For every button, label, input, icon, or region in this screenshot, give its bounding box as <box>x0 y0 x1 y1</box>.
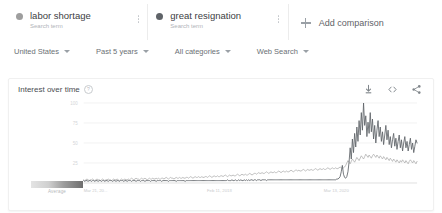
chevron-down-icon <box>303 50 309 53</box>
chevron-down-icon <box>64 50 70 53</box>
svg-text:50: 50 <box>73 141 78 146</box>
svg-text:Mar 13, 2020: Mar 13, 2020 <box>324 188 350 193</box>
svg-text:100: 100 <box>70 101 78 106</box>
add-comparison-button[interactable]: Add comparison <box>289 4 434 40</box>
panel-header: Interest over time ? <box>9 79 433 95</box>
search-term-sublabel-2: Search term <box>170 22 273 30</box>
filter-location[interactable]: United States <box>14 47 70 56</box>
search-term-sublabel-1: Search term <box>30 22 133 30</box>
svg-text:Mar 21, 20...: Mar 21, 20... <box>84 188 108 193</box>
svg-text:Feb 11, 2018: Feb 11, 2018 <box>207 188 232 193</box>
average-legend-label: Average <box>31 189 83 194</box>
search-term-label-2: great resignation <box>170 10 273 21</box>
download-icon[interactable] <box>363 84 374 95</box>
series-color-dot-2 <box>156 13 163 20</box>
filter-category-label: All categories <box>175 47 220 56</box>
average-legend: Average <box>31 181 83 195</box>
share-icon[interactable] <box>411 84 422 95</box>
search-term-card-1[interactable]: labor shortage Search term <box>8 4 148 40</box>
panel-actions <box>363 84 424 95</box>
kebab-menu-icon[interactable] <box>133 11 143 27</box>
filter-search-type[interactable]: Web Search <box>257 47 309 56</box>
svg-text:25: 25 <box>73 161 78 166</box>
panel-title-group: Interest over time ? <box>18 85 93 94</box>
filter-category[interactable]: All categories <box>175 47 231 56</box>
chevron-down-icon <box>143 50 149 53</box>
page-title: Interest over time <box>18 85 80 94</box>
average-gradient-bar <box>31 181 83 188</box>
svg-text:75: 75 <box>73 121 78 126</box>
filter-time-range-label: Past 5 years <box>96 47 138 56</box>
interest-over-time-panel: Interest over time ? <box>8 78 434 211</box>
filter-time-range[interactable]: Past 5 years <box>96 47 149 56</box>
filter-location-label: United States <box>14 47 59 56</box>
google-trends-page: labor shortage Search term great resigna… <box>0 0 442 213</box>
chevron-down-icon <box>225 50 231 53</box>
add-comparison-label: Add comparison <box>319 18 384 28</box>
plus-icon <box>301 18 311 28</box>
search-term-cards: labor shortage Search term great resigna… <box>0 0 442 40</box>
series-color-dot-1 <box>16 13 23 20</box>
help-circle-icon[interactable]: ? <box>84 85 93 94</box>
kebab-menu-icon[interactable] <box>274 11 284 27</box>
filter-search-type-label: Web Search <box>257 47 298 56</box>
search-term-label-1: labor shortage <box>30 10 133 21</box>
chart-plot-area: 255075100Mar 21, 20...Feb 11, 2018Mar 13… <box>9 95 433 208</box>
filter-bar: United States Past 5 years All categorie… <box>0 40 442 62</box>
embed-code-icon[interactable] <box>387 84 398 95</box>
search-term-card-2[interactable]: great resignation Search term <box>148 4 288 40</box>
